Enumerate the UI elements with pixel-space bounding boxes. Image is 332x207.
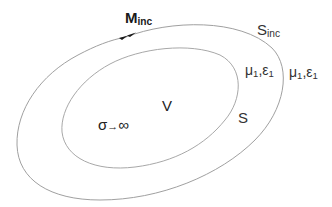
outer-medium-label: μ1,ε1 [289,65,318,80]
s-inc-label: Sinc [257,22,280,39]
inner-curve-s [62,48,238,168]
diagram-canvas: Minc Sinc μ1,ε1 μ1,ε1 V S σ→∞ [0,0,332,207]
conductivity-label: σ→∞ [98,117,129,132]
m-inc-label: Minc [125,10,152,27]
inner-medium-label: μ1,ε1 [245,63,274,78]
surface-label: S [238,110,248,125]
volume-label: V [162,98,172,113]
